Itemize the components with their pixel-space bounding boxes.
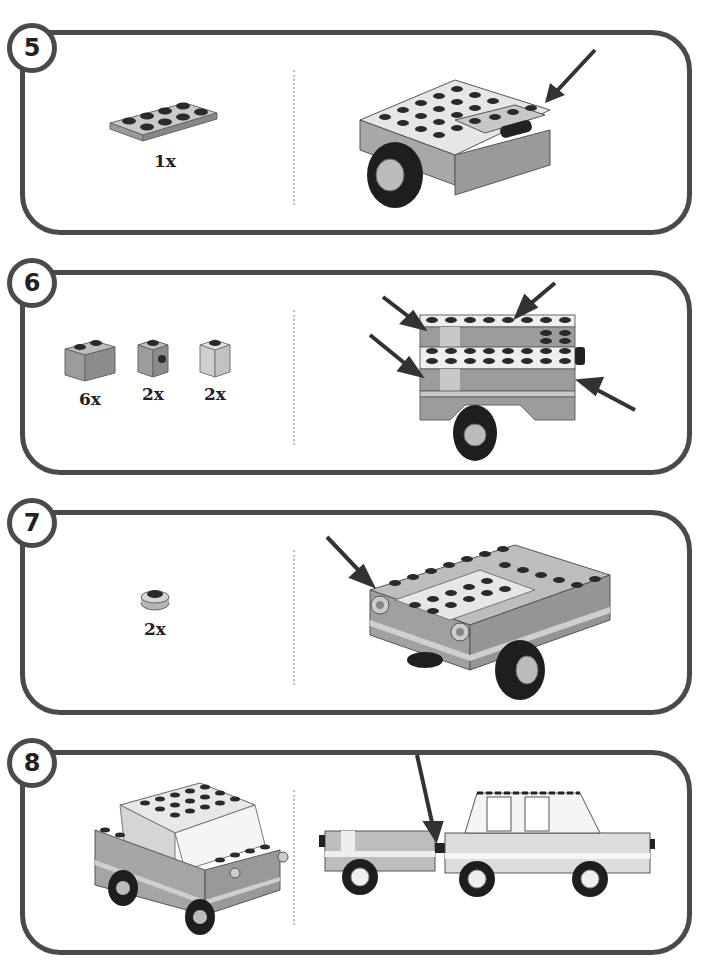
step-divider — [293, 550, 295, 685]
step-divider — [293, 790, 295, 925]
step-panel-6: 6x 2x 2x — [20, 270, 692, 475]
part-quantity: 1x — [105, 151, 225, 171]
arrow-icon — [417, 755, 441, 839]
brick-1x1-side-stud-icon — [133, 335, 173, 380]
step-panel-5: 1x — [20, 30, 692, 235]
arrow-icon — [383, 297, 423, 328]
car-towing-trailer-icon — [305, 755, 695, 955]
step-number-badge: 8 — [7, 738, 57, 788]
step-number-badge: 7 — [7, 498, 57, 548]
arrow-icon — [545, 50, 595, 103]
assembly-illustration — [305, 35, 687, 230]
arrow-icon — [327, 537, 372, 585]
brick-1x2-icon — [60, 335, 120, 385]
part-quantity: 2x — [135, 619, 175, 639]
trailer-chassis-icon — [305, 35, 685, 235]
plate-2x4-icon — [105, 95, 225, 145]
step-divider — [293, 70, 295, 205]
parts-list: 2x — [25, 515, 293, 710]
parts-list: 1x — [25, 35, 293, 230]
completed-car-icon — [45, 755, 305, 955]
arrow-icon — [370, 335, 420, 375]
round-plate-1x1-icon — [135, 585, 175, 613]
assembly-illustration — [305, 275, 687, 470]
arrow-icon — [517, 283, 555, 316]
step-number-badge: 6 — [7, 258, 57, 308]
part-quantity: 6x — [60, 389, 120, 409]
part-brick-1x2: 6x — [60, 335, 120, 409]
trailer-with-lights-icon — [305, 515, 695, 715]
assembly-illustration — [305, 515, 687, 710]
step-panel-8 — [20, 750, 692, 955]
part-plate-2x4: 1x — [105, 95, 225, 171]
step-divider — [293, 310, 295, 445]
assembly-illustration — [305, 755, 687, 950]
trailer-top-view-icon — [305, 275, 685, 475]
part-brick-1x1-light: 2x — [195, 335, 235, 404]
part-quantity: 2x — [195, 384, 235, 404]
part-quantity: 2x — [133, 384, 173, 404]
car-preview — [25, 755, 293, 950]
part-brick-1x1-stud-side: 2x — [133, 335, 173, 404]
arrow-icon — [580, 379, 635, 410]
part-round-plate-1x1: 2x — [135, 585, 175, 639]
step-panel-7: 2x — [20, 510, 692, 715]
step-number-badge: 5 — [7, 23, 57, 73]
parts-list: 6x 2x 2x — [25, 275, 293, 470]
brick-1x1-icon — [195, 335, 235, 380]
